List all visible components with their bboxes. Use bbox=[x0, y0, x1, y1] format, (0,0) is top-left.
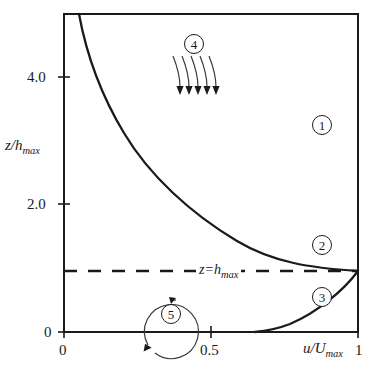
region-marker-2: 2 bbox=[312, 235, 332, 255]
region-marker-1: 1 bbox=[312, 115, 332, 135]
velocity-profile-figure: 4.0 2.0 0 0 0.5 1 z/hmax u/Umax z=hmax 1… bbox=[0, 0, 377, 377]
velocity-profile-curve-upper bbox=[79, 14, 358, 271]
region-marker-5: 5 bbox=[161, 304, 181, 324]
reference-line-label: z=hmax bbox=[196, 263, 241, 280]
region-marker-4: 4 bbox=[184, 34, 204, 54]
y-axis-title-main: z/h bbox=[5, 137, 23, 153]
x-tick-label-0-5: 0.5 bbox=[200, 343, 219, 358]
reference-line-label-sub: max bbox=[221, 269, 239, 280]
y-tick-label-0: 0 bbox=[44, 325, 52, 340]
x-axis-title-main: u/U bbox=[303, 340, 326, 356]
region-marker-3: 3 bbox=[312, 287, 332, 307]
x-tick-label-1: 1 bbox=[355, 343, 363, 358]
y-tick-label-2: 2.0 bbox=[27, 197, 46, 212]
y-tick-label-4: 4.0 bbox=[27, 70, 46, 85]
downward-flux-arrowheads bbox=[176, 86, 219, 95]
plot-canvas bbox=[0, 0, 377, 377]
velocity-profile-curve-lower bbox=[255, 271, 358, 332]
y-axis-title-sub: max bbox=[23, 145, 41, 156]
downward-flux-arrows bbox=[173, 56, 216, 87]
x-tick-label-0: 0 bbox=[59, 343, 67, 358]
reference-line-label-main: z=h bbox=[199, 262, 221, 277]
x-axis-title-sub: max bbox=[326, 348, 344, 359]
x-axis-title: u/Umax bbox=[303, 341, 343, 360]
y-axis-title: z/hmax bbox=[5, 138, 40, 157]
